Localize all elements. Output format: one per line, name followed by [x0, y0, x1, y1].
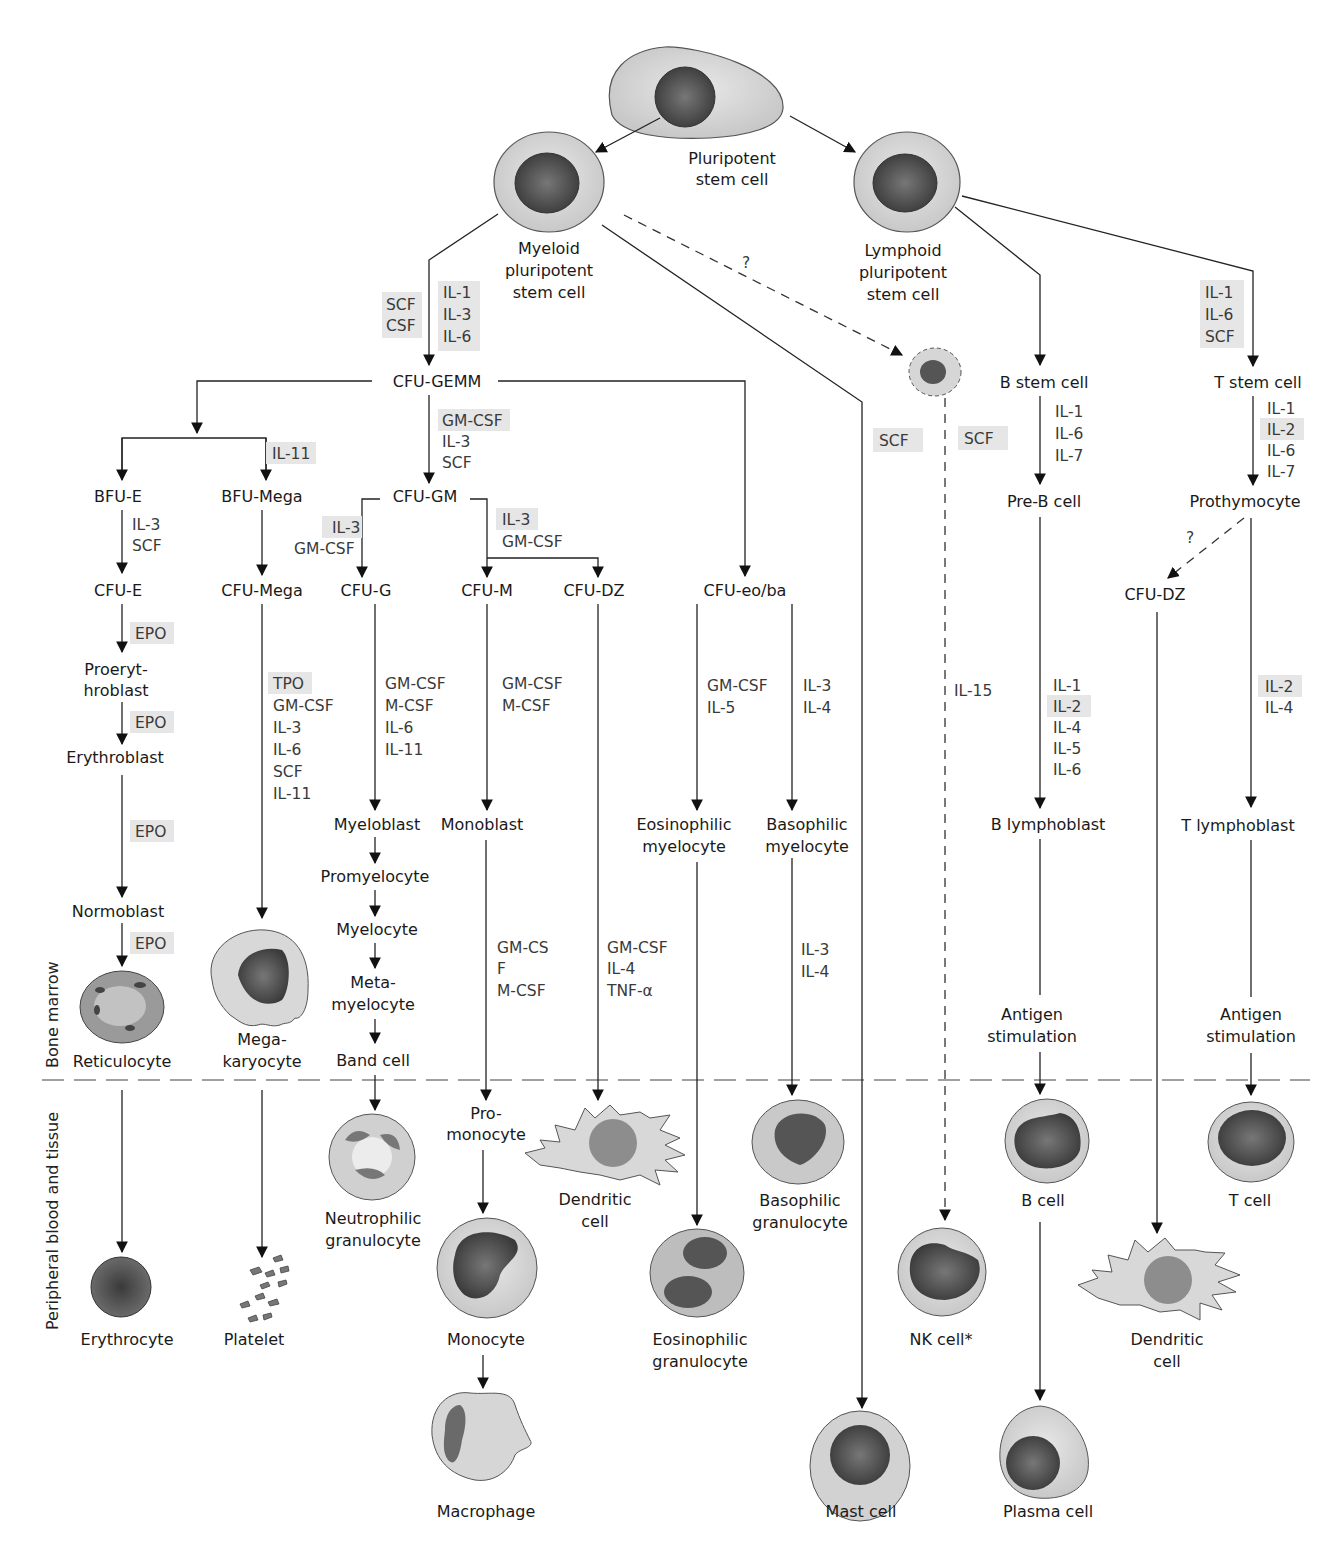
cytokine-t-stem-in: IL-1IL-6SCF [1205, 284, 1235, 346]
node-cfu-m: CFU-M [461, 581, 513, 600]
node-myeloblast: Myeloblast [334, 815, 420, 834]
cytokine-gemm-to-gm: GM-CSFIL-3SCF [442, 412, 503, 472]
nk-cell-icon [898, 1228, 986, 1316]
node-cfu-eo-ba: CFU-eo/ba [704, 581, 787, 600]
cytokine-mast-scf: SCF [879, 432, 909, 450]
node-b-cell: B cell [1021, 1191, 1065, 1210]
node-cfu-dz: CFU-DZ [563, 581, 624, 600]
node-cfu-e: CFU-E [94, 581, 142, 600]
macrophage-icon [432, 1393, 531, 1481]
cytokine-epo-1: EPO [135, 625, 166, 643]
cytokine-epo-2: EPO [135, 714, 166, 732]
node-bfu-e: BFU-E [94, 487, 142, 506]
pluripotent-label: Pluripotentstem cell [688, 149, 776, 189]
node-antigen-b: Antigenstimulation [987, 1005, 1077, 1046]
cytokine-cfu-g: GM-CSFM-CSFIL-6IL-11 [385, 675, 446, 759]
node-normoblast: Normoblast [72, 902, 164, 921]
node-macrophage: Macrophage [437, 1502, 536, 1521]
cytokine-nk-scf: SCF [964, 430, 994, 448]
cytokine-monoblast: GM-CSFM-CSF [497, 939, 549, 1000]
node-b-lymphoblast: B lymphoblast [991, 815, 1106, 834]
node-plasma-cell: Plasma cell [1003, 1502, 1093, 1521]
neutrophilic-granulocyte-icon [329, 1114, 415, 1200]
reticulocyte-icon [80, 971, 164, 1043]
monocyte-icon [437, 1218, 537, 1318]
node-cfu-dz-lymphoid: CFU-DZ [1124, 585, 1185, 604]
basophilic-granulocyte-icon [752, 1100, 844, 1184]
cytokine-cfu-mega: TPOGM-CSFIL-3IL-6SCFIL-11 [272, 675, 334, 803]
cytokine-cfu-m: GM-CSFM-CSF [502, 675, 563, 715]
myeloid-label: Myeloidpluripotentstem cell [505, 239, 593, 302]
lymphoid-label: Lymphoidpluripotentstem cell [859, 241, 947, 304]
side-label-bone-marrow: Bone marrow [43, 961, 62, 1068]
hematopoiesis-diagram: Bone marrow Peripheral blood and tissue … [0, 0, 1341, 1558]
node-cfu-gm: CFU-GM [393, 487, 458, 506]
plasma-cell-icon [1000, 1406, 1089, 1498]
node-basophilic-myelocyte: Basophilicmyelocyte [765, 815, 849, 856]
node-cfu-g: CFU-G [341, 581, 392, 600]
cytokine-il15: IL-15 [954, 682, 992, 700]
node-dendritic-cell-myeloid: Dendriticcell [559, 1190, 632, 1231]
cytokine-myeloid-right: IL-1IL-3IL-6 [443, 284, 471, 346]
nk-precursor-cell-icon [909, 348, 961, 396]
node-megakaryocyte: Mega-karyocyte [222, 1030, 301, 1071]
node-neutrophilic-granulocyte: Neutrophilicgranulocyte [325, 1209, 422, 1250]
cytokine-epo-3: EPO [135, 823, 166, 841]
cytokine-cfu-dz: GM-CSFIL-4TNF-α [606, 939, 668, 1000]
node-antigen-t: Antigenstimulation [1206, 1005, 1296, 1046]
node-monocyte: Monocyte [447, 1330, 525, 1349]
node-mast-cell: Mast cell [826, 1502, 897, 1521]
b-cell-icon [1005, 1099, 1089, 1183]
node-eosinophilic-granulocyte: Eosinophilicgranulocyte [652, 1330, 747, 1371]
node-t-lymphoblast: T lymphoblast [1180, 816, 1294, 835]
cytokine-cfu-eo: GM-CSFIL-5 [707, 677, 768, 717]
node-bfu-mega: BFU-Mega [221, 487, 302, 506]
node-cfu-gemm: CFU-GEMM [393, 372, 482, 391]
cytokine-basophil: IL-3IL-4 [801, 941, 829, 981]
node-myelocyte: Myelocyte [336, 920, 418, 939]
erythrocyte-icon [91, 1257, 151, 1317]
node-t-stem: T stem cell [1213, 373, 1302, 392]
question-mark-dz: ? [1186, 529, 1194, 547]
dendritic-cell-lymphoid-icon [1078, 1238, 1240, 1320]
side-label-peripheral: Peripheral blood and tissue [43, 1112, 62, 1330]
cytokine-b-stem: IL-1IL-6IL-7 [1055, 403, 1083, 465]
node-cfu-mega: CFU-Mega [221, 581, 302, 600]
myeloid-stem-cell-icon [494, 132, 604, 232]
node-metamyelocyte: Meta-myelocyte [331, 973, 415, 1014]
node-band-cell: Band cell [336, 1051, 410, 1070]
node-prothymocyte: Prothymocyte [1189, 492, 1300, 511]
node-promyelocyte: Promyelocyte [321, 867, 430, 886]
dendritic-cell-myeloid-icon [525, 1105, 685, 1185]
node-dendritic-cell-lymphoid: Dendriticcell [1131, 1330, 1204, 1371]
node-reticulocyte: Reticulocyte [73, 1052, 172, 1071]
cytokine-cfu-ba: IL-3IL-4 [803, 677, 831, 717]
node-t-cell: T cell [1228, 1191, 1271, 1210]
pluripotent-stem-cell-icon [609, 47, 783, 138]
question-mark-nk: ? [742, 254, 750, 272]
node-basophilic-granulocyte: Basophilicgranulocyte [752, 1191, 847, 1232]
cytokine-preb: IL-1IL-2IL-4IL-5IL-6 [1053, 677, 1081, 779]
cytokine-epo-4: EPO [135, 935, 166, 953]
eosinophilic-granulocyte-icon [650, 1229, 744, 1317]
node-platelet: Platelet [224, 1330, 285, 1349]
node-b-stem: B stem cell [1000, 373, 1089, 392]
t-cell-icon [1208, 1102, 1294, 1182]
cytokine-bfu-e: IL-3SCF [132, 516, 162, 555]
cytokine-il11: IL-11 [272, 445, 310, 463]
node-promonocyte: Pro-monocyte [446, 1104, 526, 1144]
platelet-icon [240, 1255, 289, 1322]
node-proerythroblast: Proeryt-hroblast [83, 660, 148, 700]
node-monoblast: Monoblast [441, 815, 524, 834]
megakaryocyte-icon [211, 930, 308, 1026]
node-pre-b: Pre-B cell [1007, 492, 1081, 511]
node-nk-cell: NK cell* [909, 1330, 972, 1349]
node-eosinophilic-myelocyte: Eosinophilicmyelocyte [636, 815, 731, 856]
cytokine-t-stem: IL-1IL-2IL-6IL-7 [1267, 400, 1295, 481]
node-erythroblast: Erythroblast [66, 748, 164, 767]
node-erythrocyte: Erythrocyte [81, 1330, 174, 1349]
cytokine-thymo: IL-2IL-4 [1265, 678, 1293, 717]
lymphoid-stem-cell-icon [854, 132, 960, 232]
